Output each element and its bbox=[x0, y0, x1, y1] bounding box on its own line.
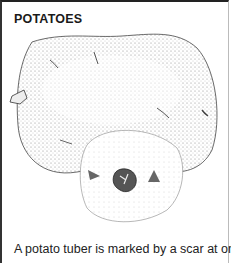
potato-illustration bbox=[2, 30, 231, 230]
caption-text: A potato tuber is marked by a scar at on… bbox=[14, 242, 231, 256]
section-title: POTATOES bbox=[14, 12, 82, 26]
scar bbox=[113, 169, 136, 192]
document-frame: POTATOES A potato tube bbox=[0, 0, 229, 263]
